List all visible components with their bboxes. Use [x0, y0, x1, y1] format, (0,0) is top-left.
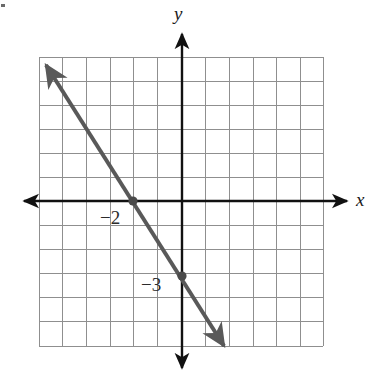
y-intercept-label: −3 — [141, 275, 161, 294]
point-y-intercept — [177, 271, 186, 280]
x-axis-label: x — [356, 190, 364, 209]
y-axis-label: y — [174, 4, 182, 23]
x-intercept-label: −2 — [100, 208, 120, 227]
point-x-intercept — [128, 196, 137, 205]
coordinate-plane-figure — [0, 0, 379, 380]
